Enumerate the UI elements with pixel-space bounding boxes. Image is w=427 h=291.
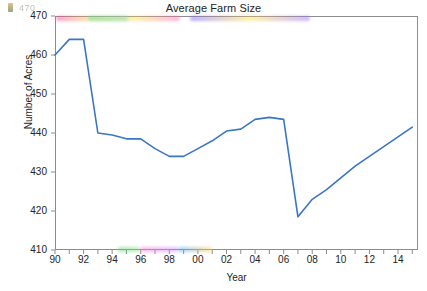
chart-svg <box>0 0 427 291</box>
chart-container: 470 Average Farm Size Number of Acres Ye… <box>0 0 427 291</box>
data-series-line <box>55 39 412 216</box>
x-tick-marks <box>55 250 412 254</box>
y-tick-marks <box>51 16 55 250</box>
